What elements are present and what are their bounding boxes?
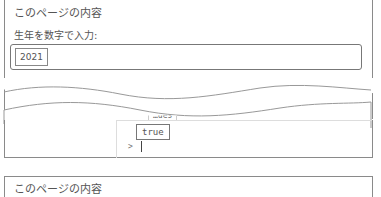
console-prompt-icon: > xyxy=(128,142,133,151)
panel-title: このページの内容 xyxy=(14,4,102,20)
birth-year-input[interactable]: 2021 xyxy=(15,48,48,66)
panel-title-2: このページの内容 xyxy=(14,180,102,196)
birth-year-field[interactable]: 2021 xyxy=(10,44,362,70)
console-result: true xyxy=(136,124,170,140)
console-input-caret[interactable] xyxy=(141,141,142,152)
birth-year-label: 生年を数字で入力: xyxy=(14,27,97,42)
